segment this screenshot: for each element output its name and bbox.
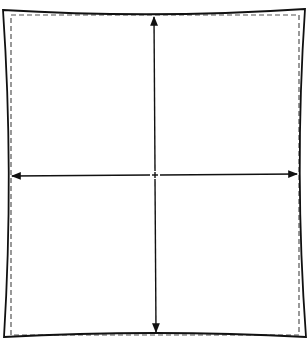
center-cross-icon [152, 172, 158, 178]
horizontal-arrow-right [160, 174, 297, 175]
horizontal-arrow-left [12, 175, 150, 176]
vertical-arrow-lower [155, 179, 156, 332]
distortion-diagram [0, 0, 307, 338]
vertical-arrow-upper [154, 17, 155, 171]
